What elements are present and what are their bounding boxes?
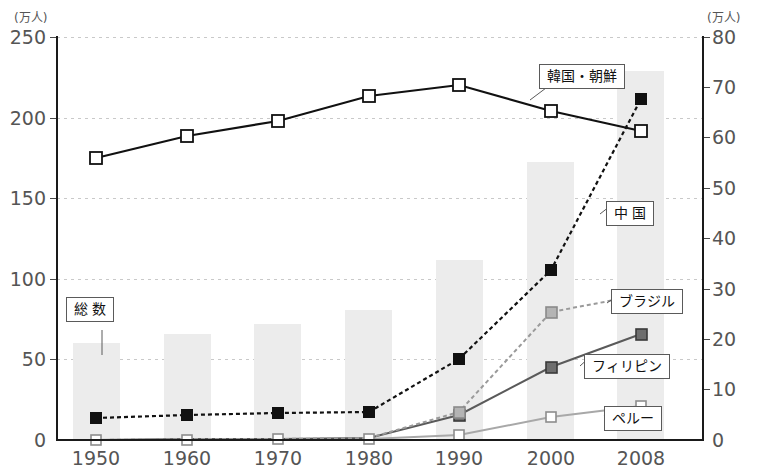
xlabel-1950: 1950 [51, 447, 141, 469]
bar-1950 [73, 343, 120, 440]
tick-right-40 [704, 238, 710, 239]
bar-1990 [436, 260, 483, 440]
ylabel-left-50: 50 [0, 348, 46, 370]
ylabel-right-0: 0 [712, 429, 756, 451]
tick-left-150 [50, 198, 56, 199]
bar-1980 [345, 310, 392, 440]
xlabel-2000: 2000 [506, 447, 596, 469]
right-axis-unit: (万人) [707, 8, 740, 25]
tick-left-250 [50, 37, 56, 38]
gridline-150 [57, 198, 703, 199]
callout-philippines: フィリピン [584, 354, 670, 379]
xlabel-1970: 1970 [233, 447, 323, 469]
ylabel-right-20: 20 [712, 328, 756, 350]
chart-root: (万人) (万人) [0, 0, 759, 474]
tick-right-60 [704, 137, 710, 138]
ylabel-left-250: 250 [0, 26, 46, 48]
tick-right-50 [704, 188, 710, 189]
bar-1970 [254, 324, 301, 440]
ylabel-right-30: 30 [712, 278, 756, 300]
tick-right-30 [704, 289, 710, 290]
y-axis-left [56, 36, 58, 441]
tick-right-80 [704, 37, 710, 38]
tick-right-20 [704, 339, 710, 340]
callout-total: 総 数 [66, 297, 114, 322]
ylabel-left-200: 200 [0, 107, 46, 129]
ylabel-right-40: 40 [712, 227, 756, 249]
xlabel-2008: 2008 [596, 447, 686, 469]
markers-korea [90, 79, 647, 164]
gridline-250 [57, 37, 703, 38]
bar-2000 [527, 162, 574, 440]
xlabel-1960: 1960 [142, 447, 232, 469]
ylabel-left-100: 100 [0, 268, 46, 290]
left-axis-unit: (万人) [14, 8, 47, 25]
ylabel-right-50: 50 [712, 177, 756, 199]
xlabel-1980: 1980 [324, 447, 414, 469]
callout-korea: 韓国・朝鮮 [539, 64, 625, 89]
ylabel-right-60: 60 [712, 126, 756, 148]
line-korea [96, 85, 641, 158]
xlabel-1990: 1990 [414, 447, 504, 469]
tick-left-50 [50, 359, 56, 360]
x-axis [56, 439, 704, 441]
tick-right-70 [704, 87, 710, 88]
callout-china: 中 国 [606, 201, 654, 226]
callout-brazil: ブラジル [611, 289, 683, 314]
ylabel-right-80: 80 [712, 26, 756, 48]
tick-right-10 [704, 389, 710, 390]
bar-1960 [164, 334, 211, 440]
ylabel-right-10: 10 [712, 378, 756, 400]
gridline-100 [57, 279, 703, 280]
bar-2008 [617, 71, 664, 440]
callout-peru: ペルー [604, 406, 662, 431]
ylabel-left-150: 150 [0, 187, 46, 209]
tick-left-100 [50, 279, 56, 280]
gridline-200 [57, 118, 703, 119]
ylabel-right-70: 70 [712, 76, 756, 98]
tick-left-200 [50, 118, 56, 119]
ylabel-left-0: 0 [0, 429, 46, 451]
